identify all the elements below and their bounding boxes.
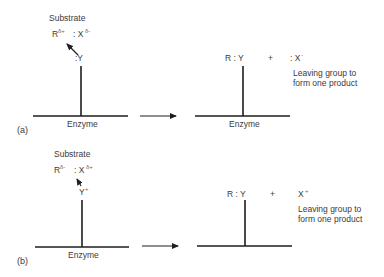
r-partial-charge: δ- (60, 164, 65, 170)
r-partial-charge: δ+ (58, 28, 65, 34)
panel-a-product: R : Y + : X - Leaving group to form one … (195, 52, 358, 129)
plus-sign: + (270, 189, 275, 199)
plus-sign: + (268, 53, 273, 63)
product-r-y: R : Y (225, 53, 244, 63)
x-group: : X (73, 29, 84, 39)
panel-b-label: (b) (17, 256, 28, 266)
leaving-group-charge: - (301, 52, 303, 58)
leaving-group-x: : X (290, 53, 301, 63)
panel-b-reactant: Substrate R δ- : X δ+ Y + Enzyme (35, 149, 129, 260)
nucleophile-charge: + (85, 186, 89, 192)
electron-shift-arrow-icon (77, 179, 81, 186)
x-group: : X (74, 165, 85, 175)
panel-b: Substrate R δ- : X δ+ Y + Enzyme (b) R :… (17, 149, 363, 266)
enzyme-label: Enzyme (67, 119, 98, 129)
panel-a-reactant: Substrate R δ+ : X δ- :Y Enzyme (33, 13, 128, 129)
leaving-group-note-line1: Leaving group to (293, 68, 357, 78)
enzyme-mechanism-diagram: Substrate R δ+ : X δ- :Y Enzyme (a) R : … (0, 0, 384, 277)
leaving-group-note-line1: Leaving group to (298, 204, 362, 214)
panel-b-product: R : Y + X + Leaving group to form one pr… (197, 188, 363, 246)
panel-a-label: (a) (17, 125, 28, 135)
x-partial-charge: δ- (85, 28, 90, 34)
enzyme-label: Enzyme (68, 250, 99, 260)
leaving-group-charge: + (305, 188, 309, 194)
leaving-group-note-line2: form one product (293, 78, 358, 88)
substrate-label: Substrate (54, 149, 91, 159)
x-partial-charge: δ+ (86, 164, 93, 170)
enzyme-label: Enzyme (229, 119, 260, 129)
product-r-y: R : Y (227, 189, 246, 199)
substrate-label: Substrate (49, 13, 86, 23)
leaving-group-note-line2: form one product (298, 214, 363, 224)
panel-a: Substrate R δ+ : X δ- :Y Enzyme (a) R : … (17, 13, 358, 135)
nucleophile-y: :Y (75, 53, 83, 63)
leaving-group-x: X (298, 189, 304, 199)
